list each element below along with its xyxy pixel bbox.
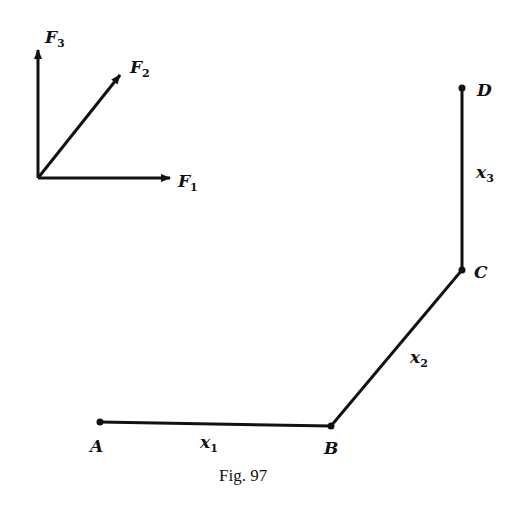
point-a-label: A (88, 436, 103, 456)
point-a-dot (97, 419, 104, 426)
point-b-label: B (323, 438, 338, 458)
segment-x2-label: x2 (409, 347, 428, 370)
point-b-dot (328, 423, 335, 430)
point-c-label: C (474, 262, 488, 282)
diagram-canvas: F1 F2 F3 A B C D x1 x2 x3 Fig. 97 (0, 0, 522, 511)
point-d-dot (459, 85, 466, 92)
force-f2-label: F2 (129, 57, 150, 80)
path-diagram: A B C D x1 x2 x3 (88, 80, 494, 458)
path-abcd (100, 88, 462, 426)
force-f1-label: F1 (177, 171, 198, 194)
force-f3-label: F3 (44, 27, 65, 50)
point-c-dot (459, 267, 466, 274)
figure-caption: Fig. 97 (219, 466, 268, 485)
segment-x1-label: x1 (199, 432, 218, 455)
force-diagram: F1 F2 F3 (38, 27, 198, 194)
point-d-label: D (476, 80, 492, 100)
segment-x3-label: x3 (475, 162, 494, 185)
force-f2-arrow (38, 75, 120, 178)
